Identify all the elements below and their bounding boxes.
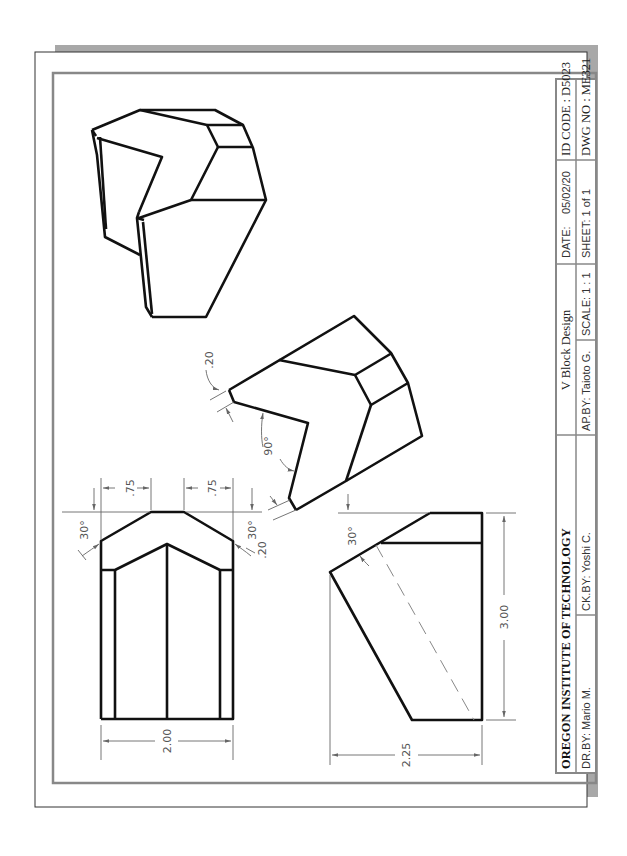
front-angle-left-label: 30° <box>78 520 91 540</box>
drawing-title: V Block Design <box>559 309 573 390</box>
checked-by: CK.BY: Yoshi C. <box>580 532 592 611</box>
institution-name: OREGON INSTITUTE OF TECHNOLOGY <box>559 528 573 769</box>
side-depth-label: 2.25 <box>400 743 413 768</box>
paper <box>35 45 598 807</box>
drawn-by: DR.BY: Mario M. <box>580 687 592 769</box>
scale: SCALE: 1 : 1 <box>580 272 592 336</box>
date-label: DATE: <box>560 226 572 258</box>
aux-flat-top-label: .20 <box>203 351 216 369</box>
front-angle-right-label: 30° <box>246 520 259 540</box>
front-chamfer-right-label: .75 <box>206 479 219 497</box>
side-height-label: 3.00 <box>498 605 511 630</box>
front-chamfer-left-label: .75 <box>124 479 137 497</box>
id-code: ID CODE : D5023 <box>559 62 573 156</box>
date-value: 05/02/20 <box>560 171 572 214</box>
front-width-label: 2.00 <box>161 729 174 754</box>
dwg-no: DWG NO : ME321 <box>579 58 593 156</box>
aux-v-angle-label: 90° <box>262 436 275 456</box>
side-angle-label: 30° <box>346 526 359 546</box>
drawing-sheet: .20 90° .20 <box>0 0 627 856</box>
approved-by: AP.BY: Taioto G. <box>580 351 592 431</box>
aux-flat-bottom-label: .20 <box>256 541 269 559</box>
title-block: ID CODE : D5023 DWG NO : ME321 DATE: 05/… <box>556 58 596 773</box>
sheet-number: SHEET: 1 of 1 <box>580 189 592 258</box>
